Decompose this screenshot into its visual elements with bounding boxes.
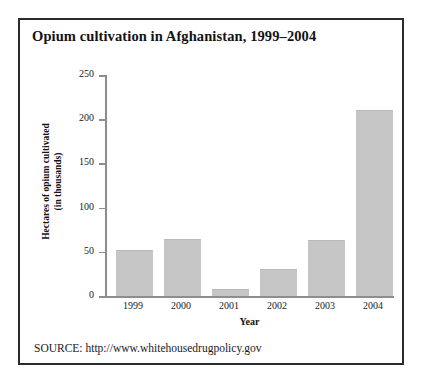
bar-slot bbox=[356, 75, 393, 296]
y-tick-mark bbox=[99, 163, 105, 165]
bar-slot bbox=[212, 75, 249, 296]
bar-2004 bbox=[356, 110, 393, 296]
y-tick-mark bbox=[99, 119, 105, 121]
x-tick-label: 1999 bbox=[109, 300, 157, 311]
plot-area: Hectares of opium cultivated (in thousan… bbox=[20, 20, 406, 367]
bar-2001 bbox=[212, 289, 249, 296]
bar-2003 bbox=[308, 240, 345, 296]
bar-slot bbox=[260, 75, 297, 296]
bar-2002 bbox=[260, 269, 297, 296]
x-tick-label: 2000 bbox=[157, 300, 205, 311]
bar-slot bbox=[116, 75, 153, 296]
bar-1999 bbox=[116, 250, 153, 296]
y-tick-label: 200 bbox=[48, 112, 94, 123]
y-tick-label: 50 bbox=[48, 245, 94, 256]
bar-slot bbox=[308, 75, 345, 296]
y-tick-mark bbox=[99, 208, 105, 210]
bar-2000 bbox=[164, 239, 201, 296]
x-tick-label: 2002 bbox=[253, 300, 301, 311]
x-axis-title: Year bbox=[105, 316, 394, 327]
y-tick-mark bbox=[99, 252, 105, 254]
y-tick-mark bbox=[99, 75, 105, 77]
x-axis-line bbox=[105, 296, 394, 298]
y-tick-label: 250 bbox=[48, 68, 94, 79]
y-tick-label: 0 bbox=[48, 289, 94, 300]
source-note: SOURCE: http://www.whitehousedrugpolicy.… bbox=[34, 342, 262, 354]
y-axis-title-line1: Hectares of opium cultivated bbox=[41, 123, 51, 240]
bar-slot bbox=[164, 75, 201, 296]
y-tick-mark bbox=[99, 296, 105, 298]
y-tick-label: 150 bbox=[48, 156, 94, 167]
y-tick-label: 100 bbox=[48, 201, 94, 212]
x-tick-label: 2004 bbox=[349, 300, 397, 311]
figure-frame: Opium cultivation in Afghanistan, 1999–2… bbox=[18, 18, 404, 365]
bar-series bbox=[106, 75, 394, 296]
x-tick-label: 2001 bbox=[205, 300, 253, 311]
x-tick-label: 2003 bbox=[301, 300, 349, 311]
